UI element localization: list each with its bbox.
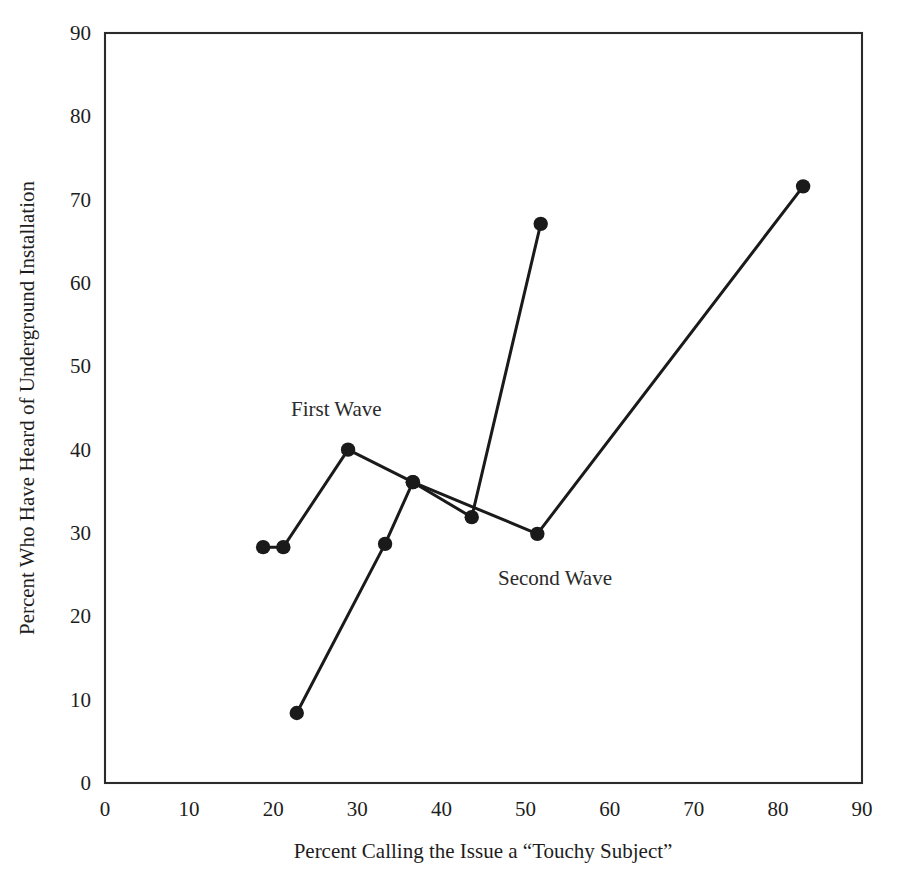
chart-background xyxy=(0,0,897,881)
x-tick-label: 30 xyxy=(347,797,368,821)
data-point-marker xyxy=(534,217,548,231)
y-axis-title: Percent Who Have Heard of Underground In… xyxy=(15,180,39,635)
data-point-marker xyxy=(290,706,304,720)
y-tick-label: 20 xyxy=(70,604,91,628)
series-annotation: First Wave xyxy=(291,397,382,421)
y-tick-label: 60 xyxy=(70,271,91,295)
x-tick-label: 0 xyxy=(100,797,111,821)
y-tick-label: 90 xyxy=(70,21,91,45)
data-point-marker xyxy=(530,527,544,541)
y-tick-label: 50 xyxy=(70,354,91,378)
x-tick-label: 40 xyxy=(431,797,452,821)
x-tick-label: 20 xyxy=(263,797,284,821)
x-tick-label: 70 xyxy=(683,797,704,821)
data-point-marker xyxy=(256,540,270,554)
x-tick-label: 50 xyxy=(515,797,536,821)
y-tick-label: 0 xyxy=(81,771,92,795)
y-tick-label: 80 xyxy=(70,104,91,128)
y-tick-label: 30 xyxy=(70,521,91,545)
data-point-marker xyxy=(276,540,290,554)
data-point-marker xyxy=(465,510,479,524)
x-tick-label: 80 xyxy=(767,797,788,821)
x-tick-label: 90 xyxy=(852,797,873,821)
x-tick-label: 10 xyxy=(179,797,200,821)
data-point-marker xyxy=(378,537,392,551)
x-tick-label: 60 xyxy=(599,797,620,821)
x-axis-title: Percent Calling the Issue a “Touchy Subj… xyxy=(294,839,673,863)
chart-container: 0102030405060708090 0102030405060708090 … xyxy=(0,0,897,881)
y-tick-label: 40 xyxy=(70,438,91,462)
data-point-marker xyxy=(341,442,355,456)
y-tick-label: 10 xyxy=(70,688,91,712)
y-tick-label: 70 xyxy=(70,188,91,212)
data-point-marker xyxy=(796,179,810,193)
series-annotation: Second Wave xyxy=(498,566,612,590)
scatter-line-chart: 0102030405060708090 0102030405060708090 … xyxy=(0,0,897,881)
data-point-marker xyxy=(406,475,420,489)
